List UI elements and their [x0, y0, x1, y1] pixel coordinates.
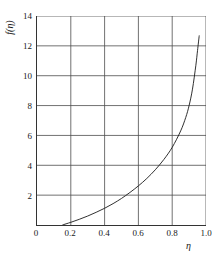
y-tick-label: 6	[6, 132, 32, 141]
y-tick-label: 8	[6, 102, 32, 111]
plot-area	[36, 16, 206, 226]
y-tick-label: 2	[6, 192, 32, 201]
curve-path	[62, 35, 199, 225]
figure-chart: f(η) 2468101214 00.20.40.60.81.0 η	[0, 0, 220, 258]
x-tick-label: 0.8	[157, 229, 187, 238]
x-tick-label: 0.4	[89, 229, 119, 238]
y-tick-label: 10	[6, 72, 32, 81]
y-tick-label: 14	[6, 12, 32, 21]
x-tick-label: 0	[21, 229, 51, 238]
x-tick-label: 0.2	[55, 229, 85, 238]
data-curve	[37, 16, 206, 225]
x-tick-label: 0.6	[123, 229, 153, 238]
y-tick-label: 12	[6, 42, 32, 51]
x-tick-label: 1.0	[191, 229, 220, 238]
y-tick-label: 4	[6, 162, 32, 171]
x-axis-label: η	[186, 240, 191, 251]
